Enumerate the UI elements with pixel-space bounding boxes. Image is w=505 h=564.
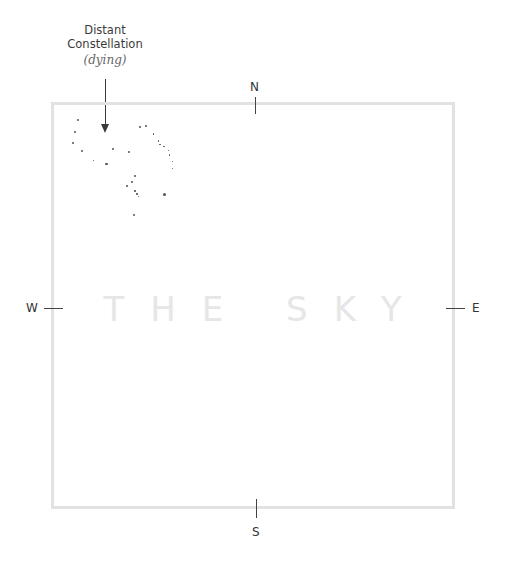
star-icon <box>169 154 171 156</box>
annotation-title-line1: Distant <box>55 23 155 37</box>
annotation-subtitle: (dying) <box>55 53 155 67</box>
star-icon <box>138 196 140 198</box>
compass-north-tick <box>255 97 256 114</box>
star-icon <box>159 144 161 146</box>
star-icon <box>158 140 160 142</box>
star-icon <box>145 125 147 127</box>
annotation-title-line2: Constellation <box>55 37 155 51</box>
compass-west-label: W <box>26 302 38 314</box>
star-icon <box>134 175 136 177</box>
star-icon <box>134 190 136 192</box>
star-icon <box>74 131 76 133</box>
compass-west-tick <box>44 308 63 309</box>
star-icon <box>81 150 83 152</box>
compass-south-label: S <box>252 526 260 538</box>
compass-east-tick <box>446 308 465 309</box>
compass-east-label: E <box>472 302 480 314</box>
star-icon <box>77 119 79 121</box>
constellation-annotation: Distant Constellation (dying) <box>55 23 155 67</box>
star-icon <box>153 133 155 135</box>
star-icon <box>136 193 138 195</box>
star-icon <box>172 168 174 170</box>
compass-north-label: N <box>250 81 259 93</box>
star-icon <box>131 181 133 183</box>
sky-title: THE SKY <box>0 291 505 327</box>
star-icon <box>133 214 135 216</box>
star-icon <box>163 193 166 196</box>
compass-south-tick <box>256 499 257 518</box>
